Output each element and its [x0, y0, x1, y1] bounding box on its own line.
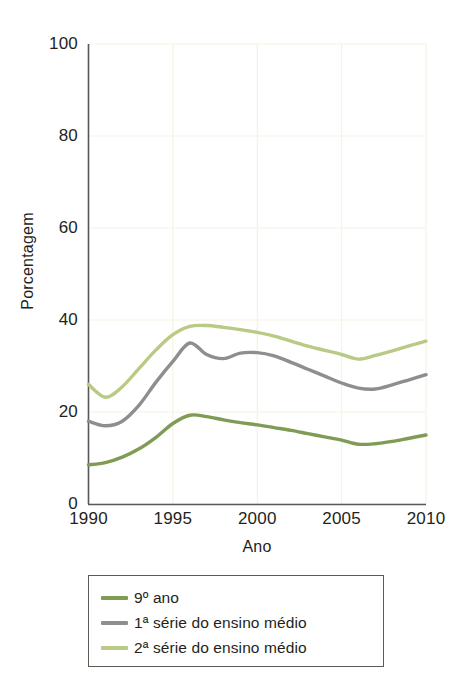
y-tick-label: 100 — [22, 34, 78, 54]
legend-swatch-icon — [101, 596, 128, 600]
x-tick: 2010 — [391, 509, 461, 529]
x-tick-label: 1990 — [69, 509, 108, 528]
legend-swatch-icon — [101, 646, 128, 650]
legend-item[interactable]: 9º ano — [101, 585, 383, 610]
legend-label: 1ª série do ensino médio — [134, 614, 307, 632]
gridlines — [89, 44, 427, 504]
x-tick-label: 2000 — [238, 509, 277, 528]
y-axis-label: Porcentagem — [19, 171, 37, 351]
y-tick: 80 — [22, 126, 78, 146]
plot-canvas — [0, 0, 467, 560]
x-tick-label: 2010 — [407, 509, 446, 528]
y-tick-label: 80 — [22, 126, 78, 146]
y-tick: 100 — [22, 34, 78, 54]
chart-figure: 100806040200 19901995200020052010 Porcen… — [0, 0, 467, 688]
legend-item[interactable]: 1ª série do ensino médio — [101, 610, 383, 635]
x-tick: 2005 — [307, 509, 377, 529]
x-tick: 1990 — [54, 509, 124, 529]
x-axis-label: Ano — [88, 538, 426, 556]
chart-legend: 9º ano1ª série do ensino médio2ª série d… — [88, 575, 384, 667]
legend-swatch-icon — [101, 621, 128, 625]
legend-label: 2ª série do ensino médio — [134, 639, 307, 657]
x-tick: 1995 — [138, 509, 208, 529]
y-tick: 20 — [22, 402, 78, 422]
x-tick-label: 1995 — [154, 509, 193, 528]
y-tick-label: 20 — [22, 402, 78, 422]
legend-label: 9º ano — [134, 589, 179, 607]
x-tick-label: 2005 — [322, 509, 361, 528]
legend-item[interactable]: 2ª série do ensino médio — [101, 635, 383, 660]
x-tick: 2000 — [222, 509, 292, 529]
line-chart: 100806040200 19901995200020052010 Porcen… — [0, 0, 467, 560]
